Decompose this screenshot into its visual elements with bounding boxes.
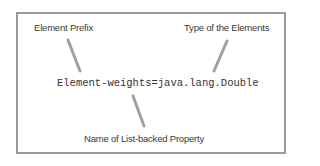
property-pointer-line bbox=[133, 96, 144, 126]
element-prefix-label: Element Prefix bbox=[34, 22, 93, 33]
element-type-label: Type of the Elements bbox=[184, 22, 269, 33]
type-pointer-line bbox=[214, 41, 227, 71]
prefix-pointer-line bbox=[68, 40, 80, 71]
property-code-line: Element-weights=java.lang.Double bbox=[57, 77, 259, 89]
property-name-label: Name of List-backed Property bbox=[84, 133, 204, 144]
